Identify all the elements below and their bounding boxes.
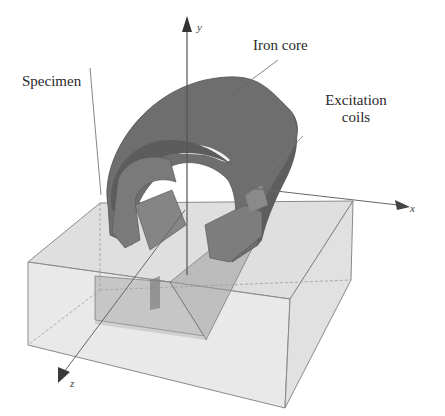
excitation-coils-label: Excitation coils <box>306 92 406 126</box>
slot-fin <box>150 276 160 310</box>
figure-canvas: Iron core Specimen Excitation coils y x … <box>0 0 445 416</box>
excitation-coils-label-line2: coils <box>306 109 406 126</box>
y-axis-arrowhead <box>182 16 192 32</box>
diagram-svg <box>0 0 445 416</box>
z-axis-arrowhead <box>58 367 70 383</box>
x-axis-label: x <box>410 202 415 214</box>
z-axis-label: z <box>70 377 74 389</box>
specimen-leader-line <box>90 68 101 195</box>
y-axis-label: y <box>197 21 202 33</box>
excitation-coils-label-line1: Excitation <box>306 92 406 109</box>
iron-core-label: Iron core <box>253 37 308 54</box>
x-axis-arrowhead <box>395 200 410 210</box>
specimen-label: Specimen <box>22 73 81 90</box>
